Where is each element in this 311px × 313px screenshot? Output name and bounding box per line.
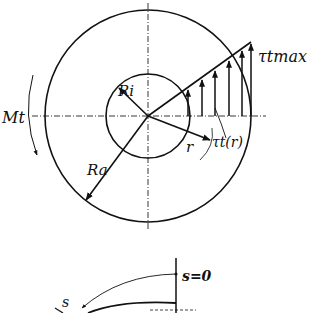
s-origin-label: s=0 bbox=[182, 268, 212, 284]
s-label: s bbox=[62, 294, 69, 310]
r-arc-leader bbox=[200, 128, 213, 160]
radius-var-label: r bbox=[186, 138, 194, 156]
stress-envelope-line bbox=[148, 42, 251, 116]
outer-radius-label: Ra bbox=[86, 161, 108, 179]
radius-r-arrow bbox=[148, 116, 210, 140]
cross-section-edge bbox=[88, 302, 176, 313]
shear-r-label: τt(r) bbox=[212, 134, 243, 150]
torsion-diagram: Ri Ra Mt r τtmax τt(r) s=0 s bbox=[0, 0, 311, 313]
shear-max-label: τtmax bbox=[258, 47, 307, 66]
inner-radius-label: Ri bbox=[117, 82, 134, 100]
torque-arrow bbox=[28, 75, 37, 155]
outer-radius-arrow bbox=[86, 116, 148, 200]
torque-label: Mt bbox=[1, 108, 25, 127]
